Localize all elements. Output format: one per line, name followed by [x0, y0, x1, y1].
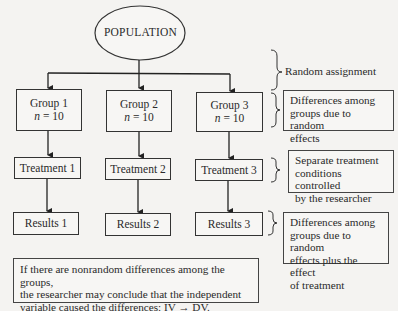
conclusion-line: If there are nonrandom differences among…	[20, 263, 252, 288]
note-line: effects	[290, 132, 387, 145]
group-1-box: Group 1 n = 10	[16, 89, 82, 131]
group-2-label: Group 2	[120, 98, 158, 111]
brace-random-assignment	[271, 50, 282, 90]
treatment-1-label: Treatment 1	[20, 162, 75, 175]
results-1-label: Results 1	[25, 217, 68, 230]
results-3-label: Results 3	[208, 218, 251, 231]
note-line: groups due to random	[290, 107, 387, 132]
conclusion-line: variable caused the differences: IV → DV…	[20, 301, 252, 311]
note-line: groups due to random	[290, 229, 382, 254]
n-symbol: n	[215, 112, 221, 124]
note-line: Differences among	[290, 94, 387, 107]
brace-treatments	[271, 158, 280, 182]
group-1-label: Group 1	[30, 97, 68, 110]
results-1-box: Results 1	[13, 212, 79, 235]
brace-results	[268, 211, 277, 235]
note-line: by the researcher	[295, 192, 387, 205]
population-label: POPULATION	[104, 26, 177, 38]
n-value: = 10	[133, 111, 154, 123]
random-assignment-label: Random assignment	[285, 65, 376, 77]
group-3-label: Group 3	[210, 99, 248, 112]
brace-groups	[271, 93, 280, 127]
treatment-3-label: Treatment 3	[201, 164, 256, 177]
results-2-box: Results 2	[105, 213, 171, 236]
treatment-2-box: Treatment 2	[105, 158, 171, 180]
group-3-box: Group 3 n = 10	[196, 92, 263, 132]
results-note-box: Differences among groups due to random e…	[283, 212, 389, 264]
note-line: Separate treatment	[295, 154, 387, 167]
n-symbol: n	[34, 110, 40, 122]
note-line: Differences among	[290, 216, 382, 229]
group-2-box: Group 2 n = 10	[106, 90, 172, 132]
n-value: = 10	[43, 110, 64, 122]
treatment-note-box: Separate treatment conditions controlled…	[288, 150, 394, 193]
results-3-box: Results 3	[195, 212, 263, 236]
note-line: effects plus the effect	[290, 254, 382, 279]
treatment-1-box: Treatment 1	[14, 157, 81, 179]
note-line: of treatment	[290, 279, 382, 292]
treatment-3-box: Treatment 3	[195, 159, 263, 181]
note-line: conditions controlled	[295, 167, 387, 192]
n-symbol: n	[124, 111, 130, 123]
n-value: = 10	[223, 112, 244, 124]
treatment-2-label: Treatment 2	[110, 163, 165, 176]
conclusion-line: the researcher may conclude that the ind…	[20, 288, 252, 301]
groups-note-box: Differences among groups due to random e…	[283, 90, 394, 131]
results-2-label: Results 2	[117, 218, 160, 231]
conclusion-box: If there are nonrandom differences among…	[13, 258, 259, 303]
